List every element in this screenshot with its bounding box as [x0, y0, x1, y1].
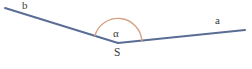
- angle-figure-svg: [0, 0, 252, 69]
- ray-b-label: b: [22, 0, 28, 11]
- ray-a-label: a: [215, 15, 220, 26]
- ray-a-line: [118, 30, 245, 43]
- angle-diagram: b a S α: [0, 0, 252, 69]
- vertex-label: S: [114, 47, 120, 58]
- angle-alpha-label: α: [113, 28, 119, 39]
